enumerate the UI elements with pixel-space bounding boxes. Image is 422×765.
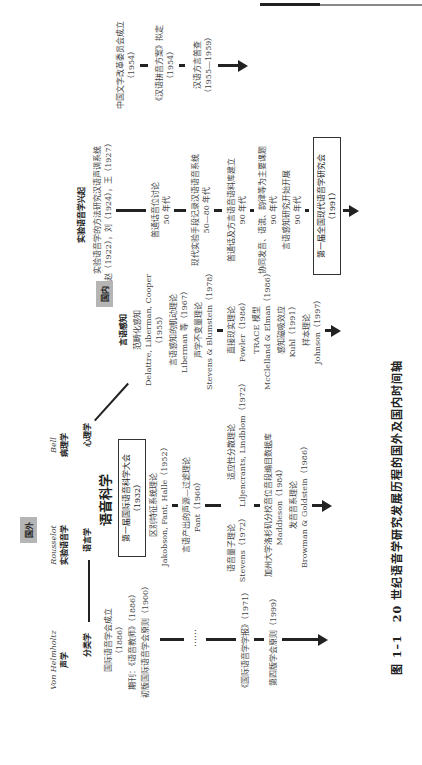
- ellipsis: ……: [188, 629, 198, 647]
- trace-model: TRACE 模型: [251, 270, 262, 390]
- ipa-founded: 国际语音学会成立: [103, 575, 114, 705]
- modern-recording-methods: 现代实验手段记录汉语语音系统: [190, 135, 201, 285]
- motor-theory: 言语感知的肌动理论: [168, 270, 179, 390]
- adaptive-dispersion-ref: Liljencrants, Lindblom（1972）: [237, 397, 248, 507]
- timeline-segment: [172, 504, 178, 507]
- congress-year: （1932）: [132, 446, 143, 550]
- speech-science-title: 语音科学: [98, 435, 114, 565]
- discipline-acoustics: 声学: [59, 615, 70, 705]
- exemplar-theory-ref: Johnson（1997）: [312, 270, 323, 390]
- timeline-segment: [217, 329, 223, 332]
- timeline-segment: [206, 638, 236, 641]
- ipa-principles-first-edition: 初版国际语音学会原则（1900）: [140, 575, 151, 705]
- coarticulation-prosody-topics: 协同发音、语流、韵律等为主要课题: [257, 135, 268, 285]
- quantal-theory-ref: Stevens（1972）: [237, 503, 248, 593]
- categorical-perception-year: （1955）: [154, 270, 165, 390]
- source-filter-ref: Fant（1960）: [192, 440, 203, 570]
- timeline-segment: [140, 64, 148, 67]
- discipline-person-bell: Bell: [48, 415, 59, 475]
- speech-perception-title: 言语感知: [118, 280, 129, 380]
- pinyin-scheme-drafted: 《汉语拼音方案》拟定: [154, 5, 165, 125]
- branch-linguistics: 语言学: [82, 520, 93, 560]
- timeline-segment: [174, 209, 186, 212]
- timeline-segment: [179, 64, 185, 67]
- timeline-arrow-head-icon: [322, 500, 332, 512]
- branch-connector: [88, 560, 90, 622]
- timeline-segment: [205, 504, 221, 507]
- distinctive-features-ref: Jakobson, Fant, Halle（1952）: [159, 440, 170, 570]
- direct-realist-ref: Fowler（1986）: [237, 270, 248, 390]
- timeline-arrow-head-icon: [318, 634, 328, 646]
- timeline-segment: [116, 209, 146, 212]
- timeline-segment: [305, 209, 309, 212]
- modern-recording-methods-ref: 50—80 年代: [201, 135, 212, 285]
- acoustic-invariance-theory: 声学不变量理论: [193, 270, 204, 390]
- speech-perception-research-ref: 90 年代: [292, 135, 303, 285]
- script-reform-committee-year: （1954）: [126, 5, 137, 125]
- tone-system-research: 实验语音学的方法研究汉语声调系统: [92, 135, 103, 285]
- articulatory-phonology: 发音音系理论: [288, 440, 299, 570]
- dialect-survey-years: （1955—1959）: [203, 5, 214, 125]
- dialect-survey: 汉语方言普查: [192, 5, 203, 125]
- psychology-to-perception-connector: [94, 383, 129, 421]
- timeline-arrow-head-icon: [331, 325, 341, 337]
- categorical-perception: 范畴化感知: [132, 270, 143, 390]
- foreign-label: 国外: [20, 517, 37, 543]
- ucla-upsid-ref: Maddieson（1984）: [274, 440, 285, 570]
- timeline-segment: [160, 638, 184, 641]
- timeline-segment: [214, 209, 222, 212]
- speech-perception-research: 言语感知研究开始开展: [281, 135, 292, 285]
- phoneme-discussion-ref: 50 年代: [161, 135, 172, 285]
- jipa-journal: 《国际语音学学报》（1971）: [240, 575, 251, 705]
- tone-system-research-ref: 赵（1922），刘（1924），王（1927）: [103, 135, 114, 285]
- timeline-arrow-shaft: [218, 64, 240, 67]
- script-reform-committee: 中国文字改革委员会成立: [115, 5, 126, 125]
- experimental-phonetics-rise-title: 实验语音学兴起: [76, 160, 87, 270]
- quantal-theory: 语音量子理论: [226, 503, 237, 593]
- branch-taxonomy: 分类学: [82, 625, 93, 665]
- timeline-segment: [254, 638, 264, 641]
- distinctive-features-theory: 区别特征系统理论: [148, 440, 159, 570]
- journal-phonetic-teacher: 期刊：《语音教师》（1886）: [127, 575, 138, 705]
- perceptual-magnet-effect: 感知磁吸效应: [276, 270, 287, 390]
- corpus-construction-ref: 90 年代: [237, 135, 248, 285]
- timeline-arrow-head-icon: [349, 205, 359, 217]
- motor-theory-ref: Liberman 等（1967）: [179, 270, 190, 390]
- discipline-experimental-phonetics: 实验语音学: [59, 500, 70, 590]
- timeline-figure: 国外 Von Helmholtz 声学 Rousselot 实验语音学 Bell…: [0, 0, 422, 765]
- acoustic-invariance-ref: Stevens & Blumstein（1978）: [204, 270, 215, 390]
- discipline-person-rousselot: Rousselot: [48, 500, 59, 590]
- timeline-segment: [250, 209, 254, 212]
- adaptive-dispersion-theory: 适应性分散理论: [226, 397, 237, 507]
- ucla-upsid-database: 加州大学洛杉矶分校音位音段编目数据库: [263, 430, 274, 580]
- figure-caption: 图 1–1 20 世纪语音学研究发展历程的国外及国内时间轴: [388, 275, 404, 760]
- conference-year: （1991）: [327, 144, 338, 268]
- conference-name: 第一届全国现代语音学研究会: [316, 144, 327, 268]
- perceptual-magnet-ref: Kuhl（1991）: [287, 270, 298, 390]
- phoneme-discussion: 普通话音位讨论: [150, 135, 161, 285]
- source-filter-theory: 言语产出的声源—过滤理论: [181, 440, 192, 570]
- national-phonetics-conference-box: 第一届全国现代语音学研究会 （1991）: [313, 137, 341, 275]
- direct-realist-theory: 直接现实理论: [226, 270, 237, 390]
- ipa-principles-fourth-edition: 第四版学会原则（1999）: [268, 575, 279, 705]
- categorical-perception-ref: Delattre, Liberman, Cooper: [143, 270, 154, 390]
- first-speech-science-congress-box: 第一届国际语音科学大会 （1932）: [118, 439, 146, 557]
- timeline-segment: [254, 504, 260, 507]
- timeline-arrow-shaft: [282, 638, 320, 641]
- trace-model-ref: McClelland & Elman（1986）: [262, 270, 273, 390]
- congress-name: 第一届国际语音科学大会: [121, 446, 132, 550]
- timeline-arrow-head-icon: [238, 60, 248, 72]
- corpus-construction: 普通话及方言语音语料库建立: [226, 135, 237, 285]
- discipline-pathology: 病理学: [59, 415, 70, 475]
- coarticulation-prosody-ref: 90 年代: [268, 135, 279, 285]
- pinyin-scheme-year: （1954）: [165, 5, 176, 125]
- ipa-founded-year: （1886）: [114, 575, 125, 705]
- articulatory-phonology-ref: Browman & Goldstein（1986）: [299, 440, 310, 570]
- branch-psychology: 心理学: [82, 415, 93, 455]
- discipline-person-helmholtz: Von Helmholtz: [48, 615, 59, 705]
- exemplar-theory: 样本理论: [301, 270, 312, 390]
